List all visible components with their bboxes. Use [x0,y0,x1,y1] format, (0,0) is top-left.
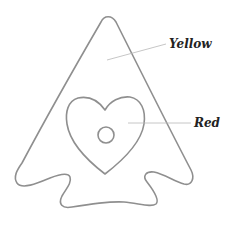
triangle-outline [15,17,192,208]
heart-outline [66,97,144,174]
center-circle [98,127,114,143]
diagram-canvas: Yellow Red [0,0,237,230]
label-red: Red [194,117,220,129]
label-yellow: Yellow [169,38,212,50]
leader-line-yellow [107,44,166,60]
